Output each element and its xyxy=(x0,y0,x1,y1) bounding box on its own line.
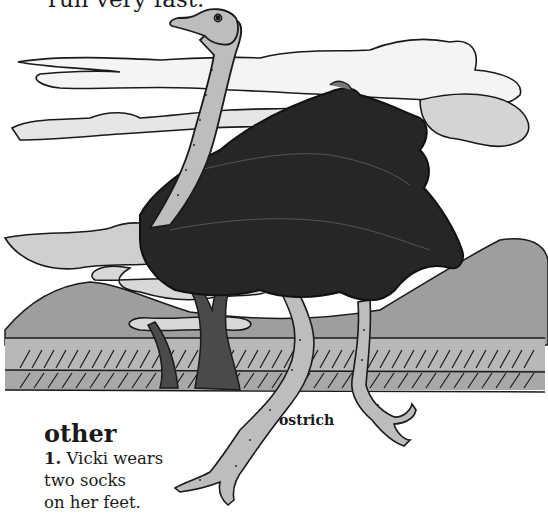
headword: other xyxy=(44,420,163,448)
definition-line-1: 1. Vicki wears xyxy=(44,448,163,470)
definition-text-1: Vicki wears xyxy=(66,449,163,468)
dictionary-entry: other 1. Vicki wears two socks on her fe… xyxy=(44,420,163,514)
definition-line-2: two socks xyxy=(44,470,163,492)
definition-number: 1. xyxy=(44,449,61,468)
illustration-caption: ostrich xyxy=(279,412,334,428)
definition-line-3: on her feet. xyxy=(44,492,163,514)
ground-band-1 xyxy=(5,338,545,370)
